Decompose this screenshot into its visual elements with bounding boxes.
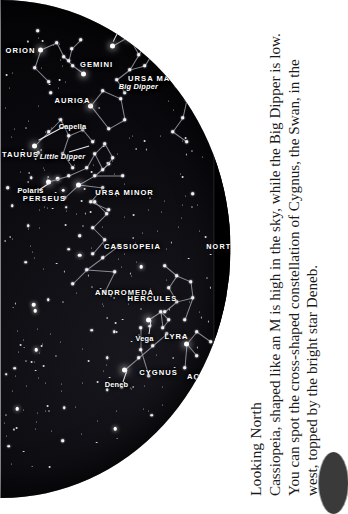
star [25, 127, 26, 128]
star [38, 227, 39, 228]
star [148, 410, 149, 411]
star [45, 410, 46, 411]
constellation-star [38, 48, 43, 53]
constellation-line [190, 282, 193, 298]
star [96, 420, 97, 421]
star [39, 209, 40, 210]
star [61, 66, 62, 67]
star [43, 169, 44, 170]
star [34, 348, 38, 352]
star [179, 174, 180, 175]
star [198, 312, 199, 313]
star [48, 83, 50, 85]
constellation-star [115, 79, 118, 82]
star [36, 30, 39, 33]
star [105, 364, 106, 365]
star [95, 442, 97, 444]
star [146, 149, 147, 150]
star [6, 186, 9, 189]
star [98, 107, 100, 109]
star [106, 317, 108, 319]
star [139, 265, 143, 269]
star [22, 451, 24, 453]
constellation-star [107, 128, 110, 131]
star [92, 164, 93, 165]
star [120, 267, 121, 268]
star [42, 268, 43, 269]
constellation-star [76, 183, 81, 188]
compass-north: NORTH [206, 242, 230, 251]
constellation-star [167, 287, 170, 290]
star [51, 208, 53, 210]
star [10, 464, 11, 465]
star [4, 240, 6, 242]
star [55, 263, 57, 265]
star [130, 341, 132, 343]
star [23, 340, 24, 341]
star [4, 373, 7, 376]
star-chart: ANDROMEDACASSIOPEIAPERSEUSTAURUSAURIGAOR… [0, 0, 230, 498]
constellation-line [128, 37, 139, 55]
star [63, 271, 64, 272]
star [101, 226, 102, 227]
star [185, 154, 186, 155]
constellation-star [147, 35, 150, 38]
star [74, 164, 75, 165]
star [11, 73, 12, 74]
star [132, 214, 134, 216]
star [181, 176, 183, 178]
star [15, 427, 17, 429]
constellation-star [195, 355, 198, 358]
constellation-star [85, 269, 88, 272]
star [61, 383, 62, 384]
star [116, 438, 118, 440]
constellation-label-taurus: TAURUS [1, 150, 38, 159]
star [40, 68, 41, 69]
constellation-star [111, 157, 114, 160]
constellation-star [128, 69, 131, 72]
constellation-star [163, 265, 166, 268]
star [30, 177, 33, 180]
constellation-star [105, 213, 108, 216]
star [14, 303, 15, 304]
star [33, 309, 37, 313]
star [140, 309, 141, 310]
star [198, 231, 199, 232]
star [36, 328, 37, 329]
constellation-star [81, 72, 86, 77]
constellation-star [55, 42, 58, 45]
constellation-label-ursa-minor: URSA MINOR [95, 188, 154, 197]
star [4, 107, 5, 108]
constellation-star [167, 319, 170, 322]
horizon-band: WEST NORTH EAST [214, 0, 230, 498]
star [12, 307, 14, 309]
star [75, 406, 76, 407]
constellation-star [71, 167, 74, 170]
star [181, 141, 182, 142]
star [206, 278, 207, 279]
star-label-vega: Vega [135, 334, 153, 343]
star [39, 352, 40, 353]
star [34, 370, 36, 372]
star [47, 298, 50, 301]
constellation-star [181, 117, 184, 120]
star [59, 342, 60, 343]
star [105, 356, 108, 359]
constellation-star [85, 167, 88, 170]
star [17, 352, 18, 353]
star [207, 321, 208, 322]
constellation-star [121, 175, 124, 178]
constellation-star [183, 367, 186, 370]
star [184, 137, 186, 139]
star [47, 176, 49, 178]
star [6, 436, 7, 437]
star [42, 167, 43, 168]
star [141, 232, 142, 233]
star [58, 79, 60, 81]
star [135, 261, 136, 262]
caption-heading: Looking North [246, 26, 264, 496]
star [57, 119, 58, 120]
star [13, 128, 14, 129]
star [13, 367, 16, 370]
constellation-line [108, 120, 125, 130]
